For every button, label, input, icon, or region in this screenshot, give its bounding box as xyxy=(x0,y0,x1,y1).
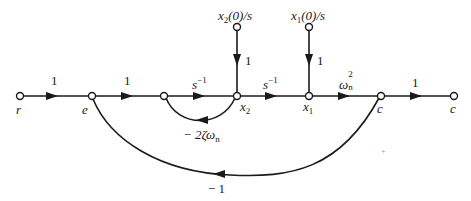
label-node-c-out: c xyxy=(450,102,456,115)
arrow-c-out xyxy=(410,92,422,100)
node-c xyxy=(378,93,385,100)
arrow-x1-c xyxy=(338,92,350,100)
gain-c-out: 1 xyxy=(412,76,419,89)
gain-x1-init: 1 xyxy=(317,54,324,67)
gain-n3-x2: s−1 xyxy=(192,76,207,91)
label-node-x2: x2 xyxy=(240,100,250,116)
label-node-x2-sub: 2 xyxy=(246,106,251,116)
gain-x2-x1-exp: −1 xyxy=(268,75,278,85)
gain-x2-init: 1 xyxy=(245,54,252,67)
label-x1-init-rest: (0)/s xyxy=(301,8,325,23)
gain-inner-feedback-text: − 2ζω xyxy=(183,127,215,142)
gain-x2-x1: s−1 xyxy=(263,76,278,91)
gain-n3-x2-exp: −1 xyxy=(197,75,207,85)
gain-inner-feedback-sub: n xyxy=(215,134,220,144)
arrow-outer-feedback xyxy=(213,170,225,178)
gain-r-e: 1 xyxy=(51,74,58,87)
node-e xyxy=(89,93,96,100)
branch-inner-feedback xyxy=(166,98,235,121)
node-c-out xyxy=(451,93,458,100)
signal-flow-graph xyxy=(0,0,471,201)
label-x2-init-rest: (0)/s xyxy=(228,8,252,23)
arrow-inner-feedback xyxy=(196,116,208,124)
node-r xyxy=(17,93,24,100)
gain-x1-c-exp: 2 xyxy=(348,70,353,79)
gain-x1-c: ω2n xyxy=(339,76,356,91)
gain-x1-c-base: ω xyxy=(339,77,348,92)
gain-outer-feedback: − 1 xyxy=(208,182,225,195)
gain-e-n3: 1 xyxy=(124,74,131,87)
arrow-e-n3 xyxy=(121,92,133,100)
label-node-x1: x1 xyxy=(303,100,313,116)
label-node-x1-sub: 1 xyxy=(309,106,314,116)
gain-inner-feedback: − 2ζωn xyxy=(183,128,220,144)
arrow-n3-x2 xyxy=(193,92,205,100)
label-node-r: r xyxy=(16,103,21,116)
label-x2-init: x2(0)/s xyxy=(218,9,252,25)
stray-mark: + xyxy=(381,148,386,156)
node-n3 xyxy=(161,93,168,100)
label-x1-init: x1(0)/s xyxy=(291,9,325,25)
arrow-x2-init xyxy=(233,54,241,66)
arrow-x2-x1 xyxy=(265,92,277,100)
branch-outer-feedback xyxy=(93,98,379,176)
label-node-c: c xyxy=(377,102,383,115)
label-node-e: e xyxy=(82,103,88,116)
arrow-r-e xyxy=(46,92,58,100)
arrow-x1-init xyxy=(305,54,313,66)
gain-x1-c-sub: n xyxy=(348,83,353,92)
